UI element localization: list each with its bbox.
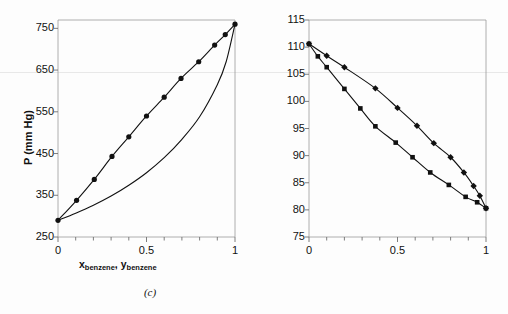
- data-point-bubble-point-line-liquid: [212, 42, 217, 47]
- data-point-bubble-point-line-liquid: [178, 76, 183, 81]
- y-tick-label: 550: [20, 105, 54, 117]
- y-tick-label: 350: [20, 188, 54, 200]
- chart-panel-c: P (mm Hg) xbenzene, ybenzene (c) 2503504…: [0, 0, 254, 314]
- x-axis-label-c: xbenzene, ybenzene: [79, 258, 157, 270]
- data-point-bubble-point-curve-liquid: [373, 124, 378, 129]
- data-point-bubble-point-line-liquid: [92, 177, 97, 182]
- y-tick-label: 115: [275, 13, 305, 25]
- data-point-bubble-point-line-liquid: [126, 134, 131, 139]
- data-point-dew-point-curve-vapor: [341, 64, 347, 70]
- series-line-dew-point-curve-vapor: [309, 44, 486, 208]
- x-axis-label-c-sub2: benzene: [127, 263, 157, 272]
- data-point-bubble-point-line-liquid: [144, 113, 149, 118]
- x-axis-label-c-sep: , y: [115, 258, 127, 270]
- data-point-bubble-point-curve-liquid: [463, 195, 468, 200]
- y-tick-label: 75: [275, 230, 305, 242]
- x-tick-label: 0.5: [136, 244, 158, 256]
- x-tick-label: 0: [298, 244, 320, 256]
- y-tick-label: 100: [275, 94, 305, 106]
- data-point-bubble-point-line-liquid: [196, 59, 201, 64]
- data-point-bubble-point-line-liquid: [74, 198, 79, 203]
- y-tick-label: 90: [275, 149, 305, 161]
- data-point-dew-point-curve-vapor: [470, 183, 476, 189]
- y-tick-label: 450: [20, 147, 54, 159]
- plot-frame: [309, 20, 486, 237]
- y-tick-label: 95: [275, 122, 305, 134]
- series-line-bubble-point-line-liquid: [58, 24, 235, 220]
- x-tick-label: 0.5: [387, 244, 409, 256]
- data-point-bubble-point-curve-liquid: [393, 140, 398, 145]
- y-tick-label: 105: [275, 67, 305, 79]
- data-point-dew-point-curve-vapor: [324, 53, 330, 59]
- series-line-bubble-point-curve-liquid: [309, 44, 486, 208]
- data-point-dew-point-curve-vapor: [477, 193, 483, 199]
- x-tick-label: 1: [224, 244, 246, 256]
- data-point-bubble-point-curve-liquid: [358, 106, 363, 111]
- data-point-bubble-point-line-liquid: [223, 32, 228, 37]
- data-point-bubble-point-curve-liquid: [410, 155, 415, 160]
- plot-frame: [58, 20, 235, 237]
- x-tick-label: 1: [475, 244, 497, 256]
- y-tick-label: 250: [20, 230, 54, 242]
- x-tick-label: 0: [47, 244, 69, 256]
- subfigure-caption-c: (c): [130, 286, 170, 298]
- data-point-bubble-point-curve-liquid: [447, 183, 452, 188]
- data-point-bubble-point-curve-liquid: [342, 87, 347, 92]
- figure-page: P (mm Hg) xbenzene, ybenzene (c) 2503504…: [0, 0, 508, 314]
- y-tick-label: 80: [275, 203, 305, 215]
- data-point-bubble-point-line-liquid: [162, 95, 167, 100]
- data-point-bubble-point-curve-liquid: [316, 54, 321, 59]
- chart-panel-d: T(°C) xbenzene, ybenzene (d) 75808590951…: [254, 0, 508, 314]
- data-point-bubble-point-curve-liquid: [475, 200, 480, 205]
- y-tick-label: 750: [20, 21, 54, 33]
- x-axis-label-c-sub1: benzene: [85, 263, 115, 272]
- y-tick-label: 650: [20, 63, 54, 75]
- y-tick-label: 110: [275, 40, 305, 52]
- y-tick-label: 85: [275, 176, 305, 188]
- data-point-bubble-point-curve-liquid: [428, 170, 433, 175]
- data-point-bubble-point-curve-liquid: [324, 65, 329, 70]
- data-point-bubble-point-line-liquid: [109, 154, 114, 159]
- x-axis-label-c-main: x: [79, 258, 85, 270]
